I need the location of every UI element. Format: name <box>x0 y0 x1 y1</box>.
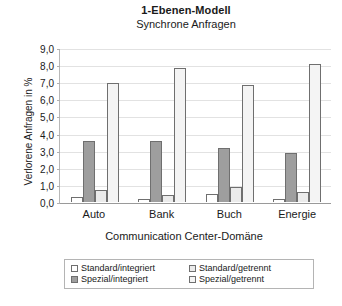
bar <box>309 64 321 202</box>
y-axis-tick-label: 7,0 <box>24 78 54 89</box>
y-axis-tick-mark <box>57 100 60 101</box>
x-axis-tick-label: Energie <box>263 208 331 220</box>
bar-group <box>196 49 264 202</box>
y-axis-tick-label: 3,0 <box>24 146 54 157</box>
legend-label: Spezial/integriert <box>81 275 148 284</box>
bar <box>162 195 174 202</box>
y-axis-tick-mark <box>57 117 60 118</box>
bar <box>230 187 242 202</box>
y-axis-tick-mark <box>57 66 60 67</box>
chart-title-block: 1-Ebenen-Modell Synchrone Anfragen <box>0 4 342 30</box>
bar <box>297 192 309 202</box>
bar-group <box>61 49 129 202</box>
bar-group <box>264 49 332 202</box>
legend-label: Standard/getrennt <box>199 264 271 273</box>
y-axis-tick-label: 2,0 <box>24 163 54 174</box>
bar <box>138 199 150 202</box>
bar <box>273 199 285 202</box>
y-axis-tick-mark <box>57 135 60 136</box>
legend-item: Spezial/getrennt <box>189 275 307 284</box>
y-axis-tick-label: 0,0 <box>24 198 54 209</box>
legend-label: Standard/integriert <box>81 264 155 273</box>
legend-item: Spezial/integriert <box>71 275 189 284</box>
legend-item: Standard/integriert <box>71 264 189 273</box>
bar <box>285 153 297 202</box>
y-axis-tick-label: 5,0 <box>24 112 54 123</box>
x-axis-tick-label: Bank <box>128 208 196 220</box>
y-axis-tick-label: 1,0 <box>24 180 54 191</box>
bar <box>83 141 95 202</box>
x-axis-tick-labels: AutoBankBuchEnergie <box>60 208 331 220</box>
chart-title: 1-Ebenen-Modell <box>0 4 342 17</box>
chart-subtitle: Synchrone Anfragen <box>0 18 342 31</box>
y-axis-tick-label: 4,0 <box>24 129 54 140</box>
legend-swatch-icon <box>189 265 196 272</box>
y-axis-tick-mark <box>57 152 60 153</box>
legend-label: Spezial/getrennt <box>199 275 264 284</box>
bar <box>150 141 162 202</box>
y-axis-tick-label: 9,0 <box>24 44 54 55</box>
chart-legend: Standard/integriertStandard/getrenntSpez… <box>64 259 314 289</box>
legend-swatch-icon <box>71 276 78 283</box>
legend-swatch-icon <box>189 276 196 283</box>
bar <box>206 194 218 202</box>
bar <box>95 190 107 202</box>
bar <box>107 83 119 202</box>
y-axis-tick-mark <box>57 169 60 170</box>
bar-group <box>129 49 197 202</box>
bar <box>218 148 230 202</box>
y-axis-tick-mark <box>57 49 60 50</box>
y-axis-tick-mark <box>57 203 60 204</box>
y-axis-tick-mark <box>57 83 60 84</box>
bar-groups <box>61 49 331 202</box>
x-axis-tick-label: Buch <box>196 208 264 220</box>
legend-item: Standard/getrennt <box>189 264 307 273</box>
bar <box>174 68 186 202</box>
x-axis-title: Communication Center-Domäne <box>0 230 342 242</box>
y-axis-tick-label: 6,0 <box>24 95 54 106</box>
bar <box>71 197 83 202</box>
x-axis-tick-label: Auto <box>60 208 128 220</box>
y-axis-tick-mark <box>57 186 60 187</box>
plot-area-wrapper: 9,08,07,06,05,04,03,02,01,00,0 <box>59 49 331 204</box>
bar <box>242 85 254 202</box>
chart-container: 1-Ebenen-Modell Synchrone Anfragen Verlo… <box>0 0 342 306</box>
y-axis-tick-label: 8,0 <box>24 61 54 72</box>
plot-area: 9,08,07,06,05,04,03,02,01,00,0 <box>59 49 331 204</box>
legend-swatch-icon <box>71 265 78 272</box>
